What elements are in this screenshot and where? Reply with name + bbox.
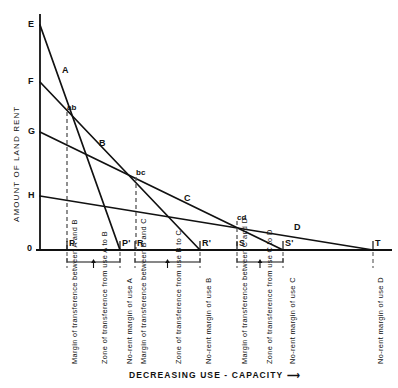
ann-norent-d: No-rent margin of use D xyxy=(377,277,384,364)
ann-margin-ab: Margin of transference between A and B xyxy=(71,219,78,364)
annotation-leader-group xyxy=(67,252,373,268)
x-point-label-T: T xyxy=(375,239,381,248)
ann-zone-bc: Zone of transference from use B to C xyxy=(175,230,182,364)
bracket-cd-arrowhead xyxy=(258,259,263,263)
ann-margin-bc: Margin of transference between B and C xyxy=(140,218,147,364)
curve-label-D: D xyxy=(294,223,301,232)
ann-margin-cd: Margin of transference between C and D xyxy=(241,218,248,364)
x-point-label-S': S' xyxy=(285,239,294,248)
y-intercept-label-E: E xyxy=(28,20,34,29)
diagram-canvas xyxy=(0,0,398,388)
ann-zone-ab: Zone of transference from use A to B xyxy=(101,231,108,364)
curve-label-A: A xyxy=(62,66,69,75)
x-point-label-R': R' xyxy=(202,239,211,248)
ann-norent-c: No-rent margin of use C xyxy=(289,277,296,364)
y-intercept-label-H: H xyxy=(28,191,35,200)
x-point-label-P': P' xyxy=(122,239,131,248)
x-axis-title-text: DECREASING USE - CAPACITY xyxy=(129,370,283,380)
axes-group xyxy=(36,14,392,250)
bracket-ab-arrowhead xyxy=(91,259,96,263)
ann-norent-b: No-rent margin of use B xyxy=(205,277,212,364)
intersection-label-bc: bc xyxy=(136,169,145,177)
x-axis-arrow-icon: ⟶ xyxy=(287,370,300,380)
x-axis-title: DECREASING USE - CAPACITY⟶ xyxy=(129,371,300,380)
intersection-label-ab: ab xyxy=(67,104,76,112)
y-axis-title: AMOUNT OF LAND RENT xyxy=(13,106,21,222)
ann-zone-cd: Zone of transference from use C to D xyxy=(266,229,273,364)
drop-lines-group xyxy=(67,112,237,250)
ann-norent-a: No-rent margin of use A xyxy=(126,278,133,364)
y-intercept-label-F: F xyxy=(28,77,34,86)
land-rent-diagram: EFGH0PP'RR'SS'TABCDabbccdMargin of trans… xyxy=(0,0,398,388)
curve-label-B: B xyxy=(99,139,106,148)
rent-lines-group xyxy=(40,25,373,250)
rent-line-B xyxy=(40,82,200,250)
origin-label: 0 xyxy=(27,244,32,253)
curve-label-C: C xyxy=(184,194,191,203)
y-intercept-label-G: G xyxy=(28,127,35,136)
bracket-bc-arrowhead xyxy=(165,259,170,263)
